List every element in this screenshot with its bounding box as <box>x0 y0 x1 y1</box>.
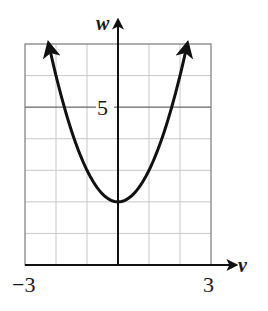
x-axis-label: v <box>238 254 248 276</box>
axes <box>25 20 236 265</box>
parabola-graph: w v −3 3 5 <box>0 0 268 311</box>
y-tick-label-5: 5 <box>97 95 108 120</box>
x-min-label: −3 <box>12 272 35 297</box>
x-max-label: 3 <box>203 272 214 297</box>
y-axis-label: w <box>96 12 110 34</box>
